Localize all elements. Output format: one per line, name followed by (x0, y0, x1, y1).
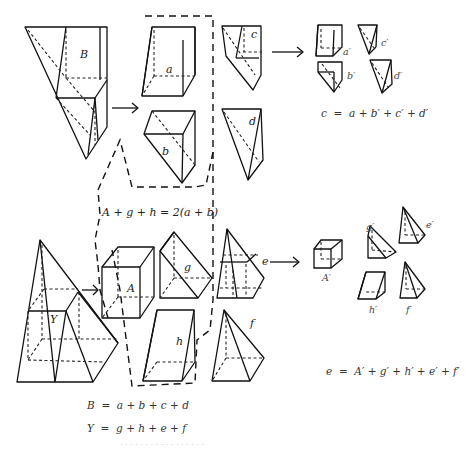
equation-Y: Y = g + h + e + f (87, 423, 186, 434)
label-g-prime: g′ (366, 222, 374, 232)
equation-c: c = a + b′ + c′ + d′ (321, 108, 428, 119)
dissection-diagram: B a b c d Y A g h e f a′ b′ c′ d′ A′ g′ … (0, 0, 467, 449)
equation-e: e = A′ + g′ + h′ + e′ + f′ (326, 366, 459, 377)
label-b: b (162, 146, 169, 157)
label-d-prime: d′ (394, 71, 402, 81)
label-b-prime: b′ (347, 71, 355, 81)
label-c: c (251, 29, 257, 40)
solid-e (217, 229, 264, 298)
solid-Y (17, 240, 118, 382)
arrow-Y (82, 285, 98, 295)
label-c-prime: c′ (381, 38, 388, 48)
label-Y: Y (50, 314, 57, 325)
label-e-prime: e′ (426, 220, 434, 230)
arrow-B (112, 103, 138, 113)
figure-caption: · · · · · · · · · · · · · · · · · (120, 440, 204, 449)
label-e: e (262, 256, 269, 267)
label-a: a (166, 64, 173, 75)
label-d: d (249, 116, 256, 127)
solid-b (144, 111, 195, 183)
label-f-prime: f′ (406, 305, 412, 315)
solid-d (222, 109, 263, 180)
label-A: A (127, 283, 135, 294)
arrow-c (272, 47, 303, 57)
label-A-prime: A′ (322, 273, 331, 283)
label-h-prime: h′ (369, 305, 377, 315)
solid-B (25, 27, 107, 159)
label-g: g (184, 262, 191, 273)
pieces-c (316, 25, 392, 93)
label-a-prime: a′ (343, 47, 351, 57)
label-f: f (250, 318, 254, 329)
diagram-drawing (0, 0, 467, 449)
solid-h (143, 310, 195, 381)
label-h: h (176, 336, 183, 347)
arrow-e (270, 257, 299, 267)
equation-B: B = a + b + c + d (87, 400, 189, 411)
label-B: B (80, 49, 88, 60)
solid-f (212, 310, 264, 381)
solid-a (142, 27, 195, 96)
equation-boxed: A + g + h = 2(a + b) (102, 207, 218, 218)
